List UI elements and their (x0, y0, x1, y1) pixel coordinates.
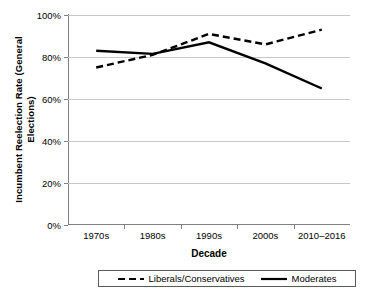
chart-legend: Liberals/Conservatives Moderates (98, 270, 356, 287)
y-axis-tick-label: 0% (47, 220, 61, 231)
x-axis-tick (124, 225, 125, 229)
y-axis-tick (64, 225, 68, 226)
x-axis-tick-label: 1980s (140, 230, 166, 241)
legend-item-liberals-conservatives: Liberals/Conservatives (118, 273, 245, 284)
y-axis-title-line1: Incumbent Reelection Rate (General (13, 7, 25, 232)
series-line-moderates (96, 42, 322, 88)
y-axis-tick-label: 40% (42, 136, 61, 147)
x-axis-tick-label: 1970s (83, 230, 109, 241)
x-axis-title: Decade (68, 248, 350, 259)
chart-container: Incumbent Reelection Rate (General Elect… (0, 0, 366, 292)
legend-label-moderates: Moderates (292, 273, 337, 284)
series-line-liberals-conservatives (96, 30, 322, 68)
y-axis-tick-label: 100% (37, 10, 61, 21)
y-axis-tick-label: 20% (42, 178, 61, 189)
series-layer (68, 15, 350, 225)
legend-swatch-dashed (118, 275, 144, 283)
legend-swatch-solid (261, 275, 287, 283)
y-axis-title-line2: Elections) (25, 7, 37, 232)
y-axis-tick-label: 80% (42, 52, 61, 63)
y-axis-tick-label: 60% (42, 94, 61, 105)
x-axis-tick (181, 225, 182, 229)
x-axis-tick (237, 225, 238, 229)
x-axis-tick (294, 225, 295, 229)
x-axis-tick-label: 2000s (252, 230, 278, 241)
x-axis-tick-label: 1990s (196, 230, 222, 241)
x-axis-tick-label: 2010–2016 (298, 230, 346, 241)
legend-label-liberals-conservatives: Liberals/Conservatives (149, 273, 245, 284)
plot-area: 0%20%40%60%80%100%1970s1980s1990s2000s20… (68, 15, 350, 225)
y-axis-title: Incumbent Reelection Rate (General Elect… (13, 7, 36, 232)
plot-inner: 0%20%40%60%80%100%1970s1980s1990s2000s20… (68, 15, 350, 225)
legend-item-moderates: Moderates (261, 273, 337, 284)
